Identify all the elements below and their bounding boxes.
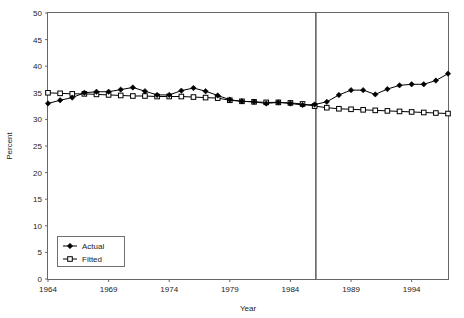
data-point-fitted-marker bbox=[191, 95, 196, 100]
data-point-actual-marker bbox=[179, 88, 184, 93]
data-point-fitted-marker bbox=[397, 109, 402, 114]
y-tick-label: 45 bbox=[33, 36, 42, 45]
y-tick-label: 35 bbox=[33, 89, 42, 98]
series-actual bbox=[45, 71, 450, 108]
data-point-fitted-marker bbox=[349, 107, 354, 112]
data-point-fitted-marker bbox=[421, 110, 426, 115]
y-tick-label: 40 bbox=[33, 62, 42, 71]
x-tick-label: 1989 bbox=[342, 285, 360, 294]
y-axis-title: Percent bbox=[5, 131, 14, 159]
data-point-actual-marker bbox=[203, 89, 208, 94]
legend-fitted-marker bbox=[68, 257, 73, 262]
data-point-fitted-marker bbox=[373, 108, 378, 113]
data-point-actual-marker bbox=[397, 83, 402, 88]
x-tick-label: 1964 bbox=[39, 285, 57, 294]
data-point-fitted-marker bbox=[337, 106, 342, 111]
data-point-fitted-marker bbox=[434, 111, 439, 116]
y-tick-label: 15 bbox=[33, 195, 42, 204]
x-tick-label: 1974 bbox=[160, 285, 178, 294]
data-point-fitted-marker bbox=[385, 109, 390, 114]
y-tick-label: 20 bbox=[33, 169, 42, 178]
y-tick-label: 10 bbox=[33, 222, 42, 231]
data-point-actual-marker bbox=[336, 92, 341, 97]
data-point-actual-marker bbox=[445, 71, 450, 76]
x-tick-label: 1979 bbox=[221, 285, 239, 294]
data-point-actual-marker bbox=[130, 85, 135, 90]
data-point-actual-marker bbox=[373, 92, 378, 97]
percent-vs-year-line-chart: 05101520253035404550 1964196919741979198… bbox=[0, 0, 464, 318]
data-point-actual-marker bbox=[324, 99, 329, 104]
y-tick-label: 30 bbox=[33, 115, 42, 124]
x-axis-title: Year bbox=[240, 304, 257, 313]
y-tick-label: 0 bbox=[38, 275, 43, 284]
x-tick-label: 1969 bbox=[100, 285, 118, 294]
data-point-actual-marker bbox=[118, 87, 123, 92]
data-point-fitted-marker bbox=[58, 91, 63, 96]
data-point-actual-marker bbox=[191, 85, 196, 90]
data-point-fitted-marker bbox=[118, 93, 123, 98]
data-point-actual-marker bbox=[421, 82, 426, 87]
data-point-fitted-marker bbox=[324, 105, 329, 110]
data-point-actual-marker bbox=[433, 78, 438, 83]
y-axis-tick-labels: 05101520253035404550 bbox=[33, 9, 42, 284]
data-point-fitted-marker bbox=[361, 108, 366, 113]
data-point-fitted-marker bbox=[131, 94, 136, 99]
data-point-actual-marker bbox=[348, 87, 353, 92]
data-point-fitted-marker bbox=[179, 94, 184, 99]
chart-container: 05101520253035404550 1964196919741979198… bbox=[0, 0, 464, 318]
data-point-fitted-marker bbox=[409, 110, 414, 115]
data-point-fitted-marker bbox=[446, 111, 451, 116]
y-tick-label: 5 bbox=[38, 248, 43, 257]
data-point-fitted-marker bbox=[46, 91, 51, 96]
x-axis-tick-labels: 1964196919741979198419891994 bbox=[39, 285, 421, 294]
legend-label-actual: Actual bbox=[82, 242, 104, 251]
chart-legend: ActualFitted bbox=[58, 237, 125, 267]
legend-label-fitted: Fitted bbox=[82, 255, 102, 264]
series-fitted bbox=[46, 91, 451, 116]
x-tick-label: 1984 bbox=[282, 285, 300, 294]
data-point-fitted-marker bbox=[203, 95, 208, 100]
data-point-actual-marker bbox=[142, 89, 147, 94]
data-point-actual-marker bbox=[45, 101, 50, 106]
data-point-fitted-marker bbox=[143, 94, 148, 99]
x-tick-label: 1994 bbox=[403, 285, 421, 294]
y-tick-label: 50 bbox=[33, 9, 42, 18]
y-tick-label: 25 bbox=[33, 142, 42, 151]
data-point-actual-marker bbox=[409, 82, 414, 87]
data-point-actual-marker bbox=[57, 98, 62, 103]
data-point-actual-marker bbox=[385, 86, 390, 91]
data-point-actual-marker bbox=[360, 87, 365, 92]
